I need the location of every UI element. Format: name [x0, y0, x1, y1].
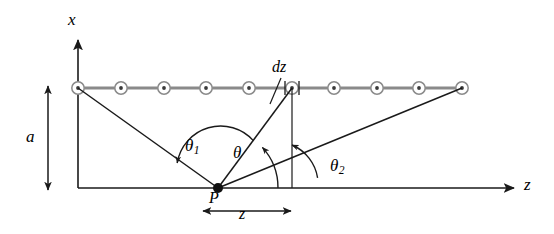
current-out-of-page-dot-icon: [243, 82, 255, 94]
current-out-of-page-dot-icon: [413, 82, 425, 94]
label-theta-1: θ1: [185, 137, 200, 157]
theta-1-subscript: 1: [194, 144, 200, 157]
element-dz-leader: [270, 78, 292, 188]
theta-1-symbol: θ: [185, 136, 193, 155]
label-distance-z: z: [239, 206, 245, 222]
current-out-of-page-dot-icon: [328, 82, 340, 94]
angle-theta-arc: [262, 147, 278, 188]
current-out-of-page-dot-icon: [115, 82, 127, 94]
angle-theta2-arc: [292, 145, 318, 178]
label-point-p: P: [209, 190, 219, 206]
theta-2-subscript: 2: [339, 164, 345, 177]
diagram-canvas: [0, 0, 554, 234]
current-out-of-page-dot-icon: [200, 82, 212, 94]
theta-2-symbol: θ: [330, 156, 338, 175]
current-out-of-page-dot-icon: [158, 82, 170, 94]
label-theta: θ: [233, 144, 241, 161]
axis-label-x: x: [68, 11, 76, 28]
current-out-of-page-dot-icon: [371, 82, 383, 94]
physics-diagram-finite-wire: x z a dz P z θ1 θ θ2: [0, 0, 554, 234]
label-element-dz: dz: [272, 59, 286, 75]
label-theta-2: θ2: [330, 157, 345, 177]
label-distance-a: a: [26, 128, 35, 145]
axis-label-z: z: [524, 176, 531, 193]
